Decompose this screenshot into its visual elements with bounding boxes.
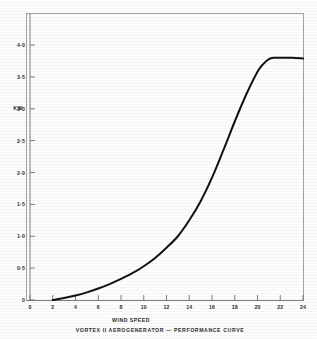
figure-caption: VORTEX II AEROGENERATOR — PERFORMANCE CU…: [76, 327, 245, 333]
y-tick-label-5: 2·5: [17, 138, 25, 144]
x-tick-label-5: 10: [141, 304, 147, 310]
y-tick-label-0: 0: [22, 297, 25, 303]
x-tick-label-4: 8: [119, 304, 122, 310]
y-tick-label-2: 1·0: [17, 233, 25, 239]
x-tick-label-7: 14: [186, 304, 192, 310]
x-tick-label-6: 12: [163, 304, 169, 310]
chart-canvas: 0 0·5 1·0 1·5 2·0 2·5 3·0 3·5 4·0 KW 0: [0, 0, 317, 339]
performance-curve-figure: 0 0·5 1·0 1·5 2·0 2·5 3·0 3·5 4·0 KW 0: [0, 0, 317, 339]
y-tick-label-3: 1·5: [17, 201, 25, 207]
x-tick-label-0: 0: [28, 304, 31, 310]
x-tick-label-2: 4: [74, 304, 77, 310]
y-axis-ticks: [30, 45, 35, 300]
x-tick-label-8: 16: [209, 304, 215, 310]
x-tick-label-9: 18: [232, 304, 238, 310]
plot-frame: [27, 14, 304, 301]
x-tick-label-1: 2: [51, 304, 54, 310]
y-tick-label-7: 3·5: [17, 74, 25, 80]
x-tick-label-3: 6: [97, 304, 100, 310]
x-axis-title: WIND SPEED: [112, 317, 150, 323]
y-tick-label-8: 4·0: [17, 42, 25, 48]
y-axis-title: KW: [13, 105, 23, 111]
performance-curve-line: [53, 58, 303, 300]
x-tick-label-11: 22: [277, 304, 283, 310]
y-tick-label-4: 2·0: [17, 170, 25, 176]
x-tick-label-10: 20: [254, 304, 260, 310]
x-tick-label-12: 24: [300, 304, 306, 310]
y-tick-label-1: 0·5: [17, 265, 25, 271]
